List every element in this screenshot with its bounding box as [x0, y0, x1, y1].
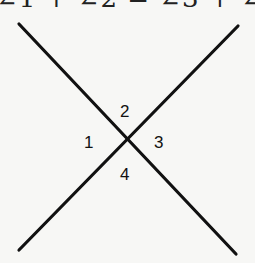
- angle-label-4: 4: [120, 165, 129, 184]
- angle-label-2: 2: [120, 102, 129, 121]
- angle-label-1: 1: [84, 133, 93, 152]
- angle-label-3: 3: [154, 133, 163, 152]
- intersecting-lines-diagram: 1 2 3 4: [0, 0, 255, 263]
